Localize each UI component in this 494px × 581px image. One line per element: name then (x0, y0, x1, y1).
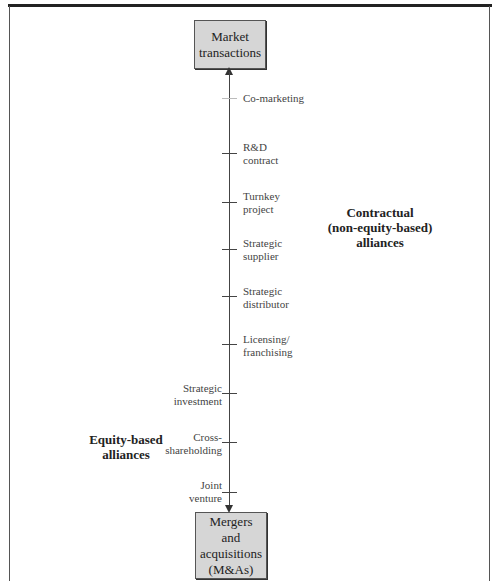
cropped-caption (0, 0, 494, 3)
label-line: supplier (243, 250, 282, 263)
box-line: Market (199, 29, 261, 45)
box-line: acquisitions (200, 546, 262, 562)
tick-turnkey-project (222, 202, 237, 203)
label-line: franchising (243, 346, 292, 359)
label-line: shareholding (165, 444, 222, 457)
label-line: Joint (189, 479, 222, 492)
label-line: Co-marketing (243, 92, 304, 105)
group-line: Contractual (320, 205, 440, 220)
label-line: Turnkey (243, 190, 280, 203)
label-line: investment (174, 395, 222, 408)
tick-strategic-supplier (222, 249, 237, 250)
group-line: alliances (86, 447, 166, 462)
frame-left-border (9, 6, 10, 581)
label-line: Licensing/ (243, 333, 292, 346)
label-line: distributor (243, 298, 289, 311)
tick-joint-venture (222, 492, 237, 493)
label-line: project (243, 203, 280, 216)
label-rd-contract: R&D contract (243, 141, 278, 167)
label-strategic-distributor: Strategic distributor (243, 285, 289, 311)
label-line: Strategic (174, 382, 222, 395)
contractual-alliances-label: Contractual (non-equity-based) alliances (320, 205, 440, 250)
group-line: Equity-based (86, 432, 166, 447)
equity-alliances-label: Equity-based alliances (86, 432, 166, 462)
box-line: and (200, 530, 262, 546)
group-line: (non-equity-based) (320, 220, 440, 235)
label-line: Strategic (243, 237, 282, 250)
market-transactions-box: Market transactions (194, 20, 266, 69)
box-line: (M&As) (200, 562, 262, 578)
label-line: R&D (243, 141, 278, 154)
tick-strategic-distributor (222, 296, 237, 297)
mergers-acquisitions-box: Mergers and acquisitions (M&As) (195, 512, 267, 579)
tick-strategic-investment (222, 393, 237, 394)
label-joint-venture: Joint venture (189, 479, 222, 505)
label-line: venture (189, 492, 222, 505)
label-strategic-investment: Strategic investment (174, 382, 222, 408)
label-licensing-franchising: Licensing/ franchising (243, 333, 292, 359)
label-turnkey-project: Turnkey project (243, 190, 280, 216)
label-strategic-supplier: Strategic supplier (243, 237, 282, 263)
label-cross-shareholding: Cross- shareholding (165, 431, 222, 457)
box-line: Mergers (200, 514, 262, 530)
tick-rd-contract (222, 153, 237, 154)
label-co-marketing: Co-marketing (243, 92, 304, 105)
frame-right-border (489, 6, 490, 581)
tick-cross-shareholding (222, 442, 237, 443)
tick-co-marketing (222, 98, 237, 99)
label-line: Strategic (243, 285, 289, 298)
label-line: contract (243, 154, 278, 167)
group-line: alliances (320, 235, 440, 250)
tick-licensing-franchising (222, 344, 237, 345)
box-line: transactions (199, 45, 261, 61)
label-line: Cross- (165, 431, 222, 444)
top-rule (8, 4, 492, 7)
